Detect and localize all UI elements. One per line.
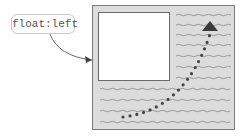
- float-left-label: float:left: [11, 14, 75, 34]
- arrow-pointer-icon: [85, 56, 92, 63]
